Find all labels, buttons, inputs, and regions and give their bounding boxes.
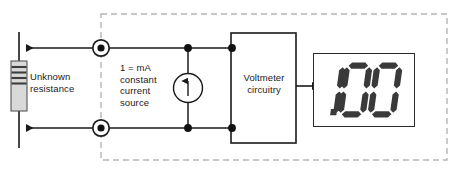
lcd-segment: [390, 91, 399, 112]
unknown-resistance-resistor: [11, 61, 27, 111]
figure-canvas: Unknown resistance 1 = mA constant curre…: [0, 0, 459, 175]
lcd-segment: [378, 63, 398, 69]
junction-dot-source-top: [184, 44, 192, 52]
lcd-segment: [393, 67, 402, 88]
junction-dot-voltmeter-bottom: [228, 124, 236, 132]
junction-dot-voltmeter-top: [228, 44, 236, 52]
lcd-segment: [371, 67, 380, 88]
unknown-resistance-label: Unknown resistance: [30, 71, 74, 94]
lcd-reading: [330, 63, 403, 118]
binding-post-terminal-bottom[interactable]: [93, 120, 109, 136]
binding-post-terminal-top[interactable]: [93, 40, 109, 56]
lcd-segment: [360, 91, 369, 112]
lcd-decimal-point: [330, 109, 337, 115]
voltmeter-circuitry-label: Voltmeter circuitry: [233, 72, 295, 95]
lcd-segment: [341, 111, 361, 117]
constant-current-source-symbol: [174, 48, 203, 128]
current-source-label: 1 = mA constant current source: [120, 62, 157, 108]
junction-dot-source-bottom: [184, 124, 192, 132]
seven-segment-lcd: [314, 54, 414, 126]
lcd-segment: [368, 91, 377, 112]
unknown-resistance-branch: [11, 32, 27, 148]
lcd-segment: [372, 111, 392, 117]
lcd-display-panel: [313, 53, 415, 127]
lcd-segment: [348, 63, 368, 69]
lcd-segment: [363, 67, 372, 88]
